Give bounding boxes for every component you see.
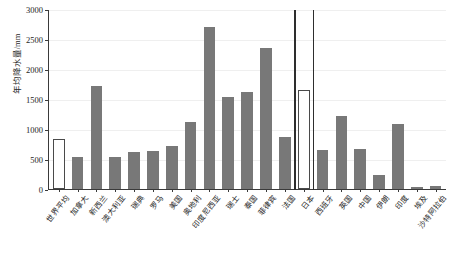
bar xyxy=(72,157,84,189)
bar-slot xyxy=(106,10,125,189)
bar-slot xyxy=(275,10,294,189)
x-tick-label: 西班牙 xyxy=(312,192,335,218)
x-tick-label: 英国 xyxy=(336,192,355,211)
bar-slot xyxy=(181,10,200,189)
x-tick-label: 世界平均 xyxy=(43,192,71,224)
x-axis-labels: 世界平均加拿大新西兰澳大利亚瑞典罗马美国奥地利印度尼西亚瑞士泰国菲律宾法国日本西… xyxy=(48,192,446,256)
x-tick-label: 菲律宾 xyxy=(256,192,279,218)
x-tick-label: 法国 xyxy=(279,192,298,211)
bar-slot xyxy=(426,10,445,189)
y-tick-label: 3000 xyxy=(26,5,43,15)
bar-series xyxy=(49,10,445,189)
y-tick-mark xyxy=(45,70,49,71)
bar-slot xyxy=(68,10,87,189)
bar xyxy=(241,92,253,189)
y-tick-label: 500 xyxy=(30,155,43,165)
y-tick-mark xyxy=(45,40,49,41)
x-tick-label: 加拿大 xyxy=(67,192,90,218)
group-separator-line xyxy=(294,10,295,190)
bar-slot xyxy=(238,10,257,189)
bar xyxy=(222,97,234,189)
y-axis-title: 年均降水量/mm xyxy=(10,4,22,124)
bar-slot xyxy=(49,10,68,189)
y-tick-label: 2000 xyxy=(26,65,43,75)
y-tick-mark xyxy=(45,160,49,161)
bar xyxy=(91,86,103,189)
y-tick-mark xyxy=(45,10,49,11)
bar xyxy=(373,175,385,189)
bar xyxy=(260,48,272,188)
bar-slot xyxy=(351,10,370,189)
bar xyxy=(185,122,197,189)
bar-slot xyxy=(257,10,276,189)
y-tick-label: 0 xyxy=(39,185,43,195)
y-tick-label: 1000 xyxy=(26,125,43,135)
precipitation-bar-chart: 年均降水量/mm 050010001500200025003000 世界平均加拿… xyxy=(0,0,456,258)
bar xyxy=(336,116,348,189)
bar xyxy=(109,157,121,189)
bar xyxy=(147,151,159,189)
bar-slot xyxy=(294,10,313,189)
bar-slot xyxy=(219,10,238,189)
x-tick-label: 中国 xyxy=(355,192,374,211)
bar-slot xyxy=(144,10,163,189)
bar-slot xyxy=(125,10,144,189)
bar-slot xyxy=(162,10,181,189)
bar xyxy=(166,146,178,189)
bar-slot xyxy=(313,10,332,189)
y-tick-label: 1500 xyxy=(26,95,43,105)
bar-slot xyxy=(87,10,106,189)
bar xyxy=(279,137,291,189)
y-tick-label: 2500 xyxy=(26,35,43,45)
y-tick-mark xyxy=(45,190,49,191)
bar-slot xyxy=(370,10,389,189)
x-tick-label: 瑞士 xyxy=(223,192,242,211)
y-tick-mark xyxy=(45,130,49,131)
bar xyxy=(298,90,310,189)
x-tick-label: 伊朗 xyxy=(374,192,393,211)
bar xyxy=(128,152,140,189)
bar-slot xyxy=(200,10,219,189)
x-tick-label: 罗马 xyxy=(147,192,166,211)
bar xyxy=(354,149,366,189)
bar-slot xyxy=(407,10,426,189)
y-tick-mark xyxy=(45,100,49,101)
x-tick-label: 印度 xyxy=(392,192,411,211)
group-separator-line xyxy=(313,10,314,190)
bar xyxy=(204,27,216,189)
bar xyxy=(317,150,329,188)
plot-area: 050010001500200025003000 xyxy=(48,10,446,190)
bar xyxy=(53,139,65,189)
bar xyxy=(392,124,404,189)
bar-slot xyxy=(388,10,407,189)
x-tick-label: 瑞典 xyxy=(128,192,147,211)
bar-slot xyxy=(332,10,351,189)
